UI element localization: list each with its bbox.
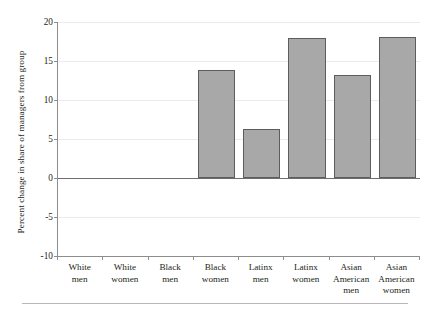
x-axis-tick-labels: WhitemenWhitewomenBlackmenBlackwomenLati…	[57, 262, 419, 308]
x-axis-tick-mark	[193, 256, 194, 260]
x-axis-tick-mark	[374, 256, 375, 260]
x-axis-tick-label-line: men	[57, 274, 102, 286]
x-axis-tick-label-line: women	[102, 274, 147, 286]
x-axis-tick-label-line: Black	[148, 262, 193, 274]
x-axis-tick-label-line: Black	[193, 262, 238, 274]
bar-slot	[375, 22, 420, 256]
x-axis-tick-label-line: Asian	[374, 262, 419, 274]
y-axis-tick-label: -5	[9, 217, 53, 218]
bar-slot	[284, 22, 329, 256]
x-axis-tick-label-line: women	[374, 285, 419, 297]
bar-slot	[330, 22, 375, 256]
bar	[198, 70, 235, 178]
x-axis-tick-label: AsianAmericanwomen	[374, 262, 419, 297]
bar-chart-figure: Percent change in share of managers from…	[0, 0, 431, 314]
x-axis-tick-mark	[283, 256, 284, 260]
x-axis-tick-label: Whitewomen	[102, 262, 147, 285]
x-axis-tick-label-line: American	[329, 274, 374, 286]
x-axis-tick-label-line: Asian	[329, 262, 374, 274]
x-axis-tick-label-line: men	[329, 285, 374, 297]
x-axis-tick-label: AsianAmericanmen	[329, 262, 374, 297]
plot-area: 20151050-5-10	[57, 22, 420, 256]
x-axis-tick-mark	[57, 256, 58, 260]
bar	[379, 37, 416, 178]
x-axis-tick-label-line: White	[102, 262, 147, 274]
x-axis-tick-marks	[57, 256, 419, 261]
y-axis-tick-label: 20	[9, 22, 53, 23]
x-axis-tick-mark	[148, 256, 149, 260]
bar	[288, 38, 325, 178]
footer-rule	[22, 303, 408, 304]
bar-slot	[149, 22, 194, 256]
bar-series	[58, 22, 420, 256]
x-axis-tick-label: Blackwomen	[193, 262, 238, 285]
x-axis-tick-mark	[419, 256, 420, 260]
bar-slot	[58, 22, 103, 256]
x-axis-tick-label-line: White	[57, 262, 102, 274]
x-axis-tick-label-line: men	[238, 274, 283, 286]
y-axis-tick-label: 0	[9, 178, 53, 179]
x-axis-tick-mark	[238, 256, 239, 260]
bar-slot	[194, 22, 239, 256]
x-axis-tick-label: Latinxwomen	[283, 262, 328, 285]
x-axis-tick-label: Latinxmen	[238, 262, 283, 285]
x-axis-tick-label-line: men	[148, 274, 193, 286]
x-axis-tick-label: Blackmen	[148, 262, 193, 285]
x-axis-tick-mark	[329, 256, 330, 260]
x-axis-tick-label-line: American	[374, 274, 419, 286]
bar	[334, 75, 371, 178]
x-axis-tick-label-line: women	[283, 274, 328, 286]
y-axis-tick-label: 5	[9, 139, 53, 140]
bar-slot	[103, 22, 148, 256]
bar-slot	[239, 22, 284, 256]
y-axis-title: Percent change in share of managers from…	[14, 12, 28, 272]
x-axis-tick-label-line: women	[193, 274, 238, 286]
y-axis-tick-label: 10	[9, 100, 53, 101]
y-axis-tick-label: 15	[9, 61, 53, 62]
bar	[243, 129, 280, 178]
x-axis-tick-label-line: Latinx	[238, 262, 283, 274]
x-axis-tick-mark	[102, 256, 103, 260]
y-axis-tick-label: -10	[9, 256, 53, 257]
x-axis-tick-label-line: Latinx	[283, 262, 328, 274]
x-axis-tick-label: Whitemen	[57, 262, 102, 285]
